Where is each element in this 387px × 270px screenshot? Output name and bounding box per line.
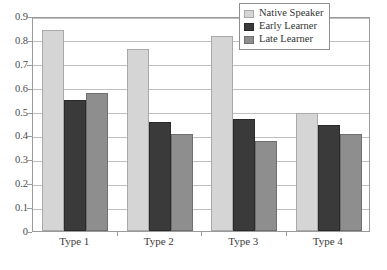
bar (255, 141, 277, 231)
legend-item[interactable]: Early Learner (244, 20, 323, 33)
legend-swatch-late-learner (244, 36, 254, 44)
y-axis-tick-label: 0.2 (2, 179, 28, 190)
legend-swatch-early-learner (244, 23, 254, 31)
bar-chart: 00.10.20.30.40.50.60.70.80.9 Type 1Type … (0, 0, 387, 270)
x-axis-tick-label: Type 4 (286, 236, 371, 247)
bar (127, 49, 149, 231)
legend-label: Early Learner (259, 21, 317, 32)
bar (318, 125, 340, 231)
bar (296, 113, 318, 231)
legend-label: Late Learner (259, 34, 313, 45)
bar (149, 122, 171, 231)
y-axis-tick-label: 0.9 (2, 12, 28, 23)
bar (211, 36, 233, 231)
legend-item[interactable]: Native Speaker (244, 7, 323, 20)
y-axis-tick-label: 0.5 (2, 108, 28, 119)
bar (340, 134, 362, 231)
legend-swatch-native-speaker (244, 10, 254, 18)
y-axis-tick-label: 0.4 (2, 131, 28, 142)
y-axis-tick-label: 0.1 (2, 203, 28, 214)
legend-label: Native Speaker (259, 8, 323, 19)
legend-item[interactable]: Late Learner (244, 33, 323, 46)
bar (86, 93, 108, 231)
y-axis-tick-label: 0.7 (2, 60, 28, 71)
x-axis-tick-label: Type 1 (32, 236, 117, 247)
bar (233, 119, 255, 231)
y-axis-tick-label: 0 (2, 227, 28, 238)
bar (171, 134, 193, 231)
x-axis-tick-label: Type 3 (201, 236, 286, 247)
bar (64, 100, 86, 231)
y-axis-tick-label: 0.6 (2, 84, 28, 95)
x-axis-tick-label: Type 2 (117, 236, 202, 247)
y-axis-tick-label: 0.8 (2, 36, 28, 47)
y-axis-tick-label: 0.3 (2, 155, 28, 166)
legend: Native Speaker Early Learner Late Learne… (239, 3, 330, 50)
y-axis-tick-mark (27, 232, 32, 233)
bar (42, 30, 64, 231)
